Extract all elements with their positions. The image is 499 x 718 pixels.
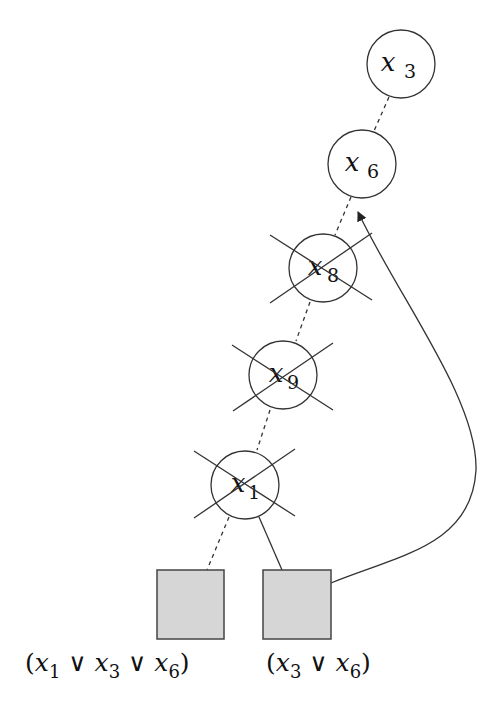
node-x8: x 8 — [270, 233, 372, 303]
node-sub: 3 — [404, 60, 416, 82]
node-var: x — [381, 47, 396, 77]
edge-x1-clause1 — [207, 517, 229, 570]
edge-x8-x9 — [296, 302, 310, 341]
diagram-canvas: x 3 x 6 x 8 x 9 x 1 (x1 ∨ x3 ∨ x6) (x3 ∨ — [0, 0, 499, 718]
edge-x6-x8 — [335, 197, 351, 235]
edge-x3-x6 — [374, 97, 389, 131]
node-var: x — [345, 147, 360, 177]
node-x6: x 6 — [328, 130, 396, 198]
clause-box-1 — [157, 570, 224, 639]
node-sub: 6 — [367, 160, 379, 182]
clause-label-1: (x1 ∨ x3 ∨ x6) — [25, 648, 190, 682]
edge-x1-clause2 — [259, 517, 282, 570]
clause-box-2 — [263, 570, 331, 639]
node-circle — [328, 130, 396, 198]
node-x9: x 9 — [232, 341, 333, 411]
node-x3: x 3 — [367, 30, 435, 98]
node-var: x — [308, 251, 323, 281]
node-circle — [367, 30, 435, 98]
clause-label-2: (x3 ∨ x6) — [266, 648, 371, 682]
node-x1: x 1 — [194, 449, 295, 519]
node-circle — [289, 234, 357, 302]
edge-x9-x1 — [257, 410, 270, 450]
